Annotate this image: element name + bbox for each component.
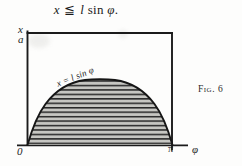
shaded-region [20, 73, 180, 151]
y-tick-label-a: a [18, 34, 24, 45]
figure-page: x ≦ l sin φ. Fig. 6 [0, 0, 242, 166]
inequality-formula: x ≦ l sin φ. [0, 2, 172, 18]
relation-symbol: ≦ [63, 2, 76, 17]
formula-terminator: . [115, 2, 119, 17]
x-tick-label-pi: π [168, 144, 173, 154]
x-axis-label: φ [192, 144, 198, 155]
formula-lhs: x [54, 2, 60, 17]
formula-function: sin [88, 2, 104, 17]
formula-variable: φ [107, 2, 115, 17]
plot-area [0, 18, 242, 166]
origin-label: 0 [17, 146, 23, 157]
formula-coefficient: l [80, 2, 84, 17]
